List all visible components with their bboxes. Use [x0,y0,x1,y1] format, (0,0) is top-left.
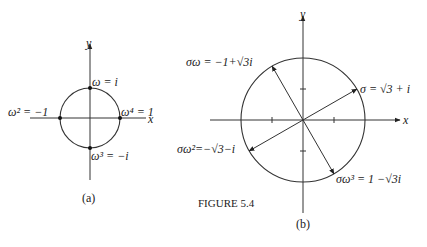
label-sigma-omega: σω = −1+√3i [186,56,253,68]
label-omega: ω = i [92,76,118,88]
label-omega2: ω² = −1 [8,106,48,118]
label-omega3: ω³ = −i [91,150,129,162]
panel-b-caption: (b) [296,218,310,230]
label-sigma: σ = √3 + i [360,83,410,95]
label-omega4: ω⁴ = 1 [121,106,154,118]
vector-sigma [303,89,357,120]
label-sigma-omega2: σω²=−√3−i [177,143,235,155]
label-sigma-omega3: σω³ = 1 −√3i [336,173,401,185]
panel-a-caption: (a) [82,192,95,204]
vector-sigma-omega3 [303,120,334,174]
figure-caption: FIGURE 5.4 [198,198,254,209]
x-axis-label-b: x [403,114,408,126]
y-axis-label-a: y [86,37,91,49]
vector-sigma-omega2 [249,120,303,151]
vector-sigma-omega [272,66,303,120]
figure-canvas [0,0,427,247]
y-axis-label-b: y [300,8,305,20]
